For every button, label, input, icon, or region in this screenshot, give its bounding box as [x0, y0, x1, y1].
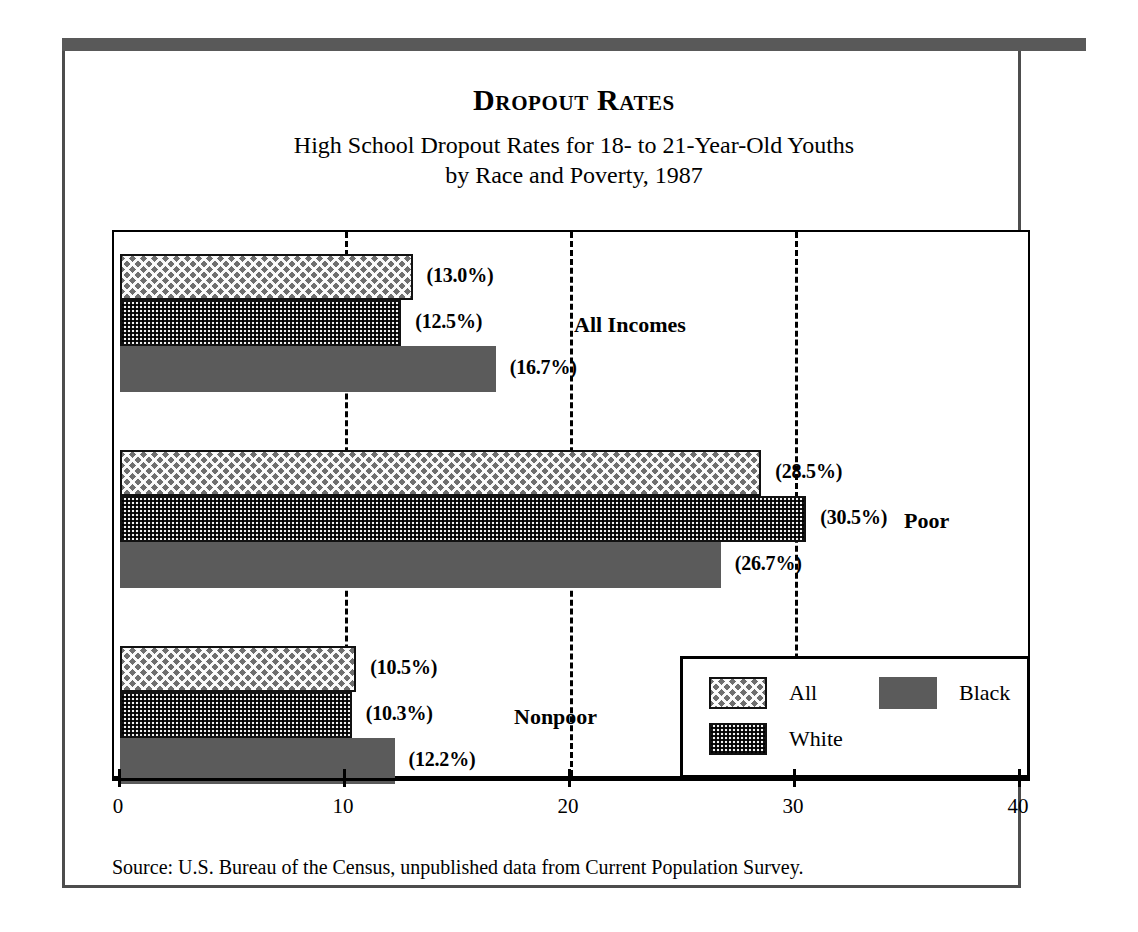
group-label-poor: Poor — [904, 508, 949, 534]
group-label-all-incomes: All Incomes — [574, 312, 686, 338]
x-tick-label-0: 0 — [113, 794, 124, 819]
bar-value-label: (12.2%) — [409, 748, 476, 771]
plot-area: (13.0%)(12.5%)(16.7%)All Incomes(28.5%)(… — [112, 230, 1030, 778]
legend-item-black[interactable]: Black — [879, 677, 1010, 709]
x-axis-line — [112, 778, 1030, 781]
chart-subtitle-line-1: High School Dropout Rates for 18- to 21-… — [62, 130, 1086, 161]
bar-poor-all — [120, 450, 761, 496]
bar-value-label: (16.7%) — [510, 356, 577, 379]
group-label-nonpoor: Nonpoor — [514, 704, 597, 730]
bar-all-incomes-all — [120, 254, 413, 300]
x-tick-10 — [343, 769, 346, 787]
legend-swatch-all-icon — [709, 677, 767, 709]
x-tick-label-20: 20 — [558, 794, 579, 819]
bar-value-label: (12.5%) — [415, 310, 482, 333]
legend-item-all[interactable]: All — [709, 677, 817, 709]
chart-subtitle-line-2: by Race and Poverty, 1987 — [62, 160, 1086, 191]
legend-label: White — [789, 726, 843, 752]
bar-nonpoor-white — [120, 692, 352, 738]
chart-subtitle: High School Dropout Rates for 18- to 21-… — [62, 130, 1086, 191]
page-title: Dropout Rates — [62, 84, 1086, 116]
bar-value-label: (28.5%) — [775, 460, 842, 483]
bar-poor-white — [120, 496, 806, 542]
x-tick-20 — [568, 769, 571, 787]
legend-swatch-black-icon — [879, 677, 937, 709]
source-note: Source: U.S. Bureau of the Census, unpub… — [112, 856, 803, 879]
x-tick-0 — [118, 769, 121, 787]
legend-swatch-white-icon — [709, 723, 767, 755]
bar-value-label: (10.5%) — [370, 656, 437, 679]
legend: AllWhiteBlack — [680, 656, 1030, 778]
bar-value-label: (26.7%) — [735, 552, 802, 575]
bar-poor-black — [120, 542, 721, 588]
legend-item-white[interactable]: White — [709, 723, 843, 755]
bar-all-incomes-white — [120, 300, 401, 346]
top-rule-decoration — [62, 38, 1086, 51]
legend-label: Black — [959, 680, 1010, 706]
x-axis: 010203040 — [112, 778, 1030, 838]
legend-label: All — [789, 680, 817, 706]
bar-value-label: (10.3%) — [366, 702, 433, 725]
bar-value-label: (30.5%) — [820, 506, 887, 529]
x-tick-label-10: 10 — [333, 794, 354, 819]
x-tick-label-40: 40 — [1008, 794, 1029, 819]
x-tick-30 — [793, 769, 796, 787]
bar-value-label: (13.0%) — [427, 264, 494, 287]
bar-all-incomes-black — [120, 346, 496, 392]
x-tick-40 — [1018, 769, 1021, 787]
bar-nonpoor-all — [120, 646, 356, 692]
figure-frame: Dropout Rates High School Dropout Rates … — [62, 38, 1086, 890]
title-block: Dropout Rates High School Dropout Rates … — [62, 84, 1086, 191]
x-tick-label-30: 30 — [783, 794, 804, 819]
